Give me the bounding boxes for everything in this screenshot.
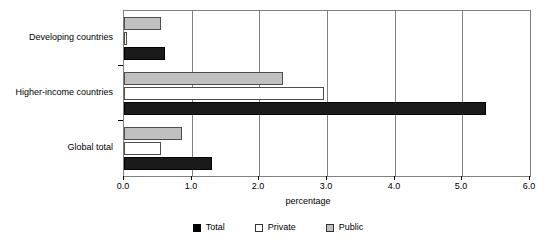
chart-legend: Total Private Public	[0, 222, 556, 233]
legend-label-private: Private	[268, 222, 296, 233]
legend-item-private: Private	[255, 222, 296, 233]
bar-total-1	[124, 102, 486, 115]
x-axis-tick-label: 1.0	[171, 181, 211, 192]
gridline	[395, 11, 396, 176]
category-axis-labels: Developing countries Higher-income count…	[0, 10, 118, 175]
gridline	[462, 11, 463, 176]
x-axis-tick-label: 2.0	[238, 181, 278, 192]
bar-public-0	[124, 17, 161, 30]
bar-private-2	[124, 142, 161, 155]
x-axis-tick	[326, 176, 327, 180]
legend-item-public: Public	[326, 222, 364, 233]
gridline	[327, 11, 328, 176]
x-axis-tick	[258, 176, 259, 180]
x-axis-title-text: percentage	[285, 196, 330, 206]
x-axis-tick-label: 5.0	[441, 181, 481, 192]
category-label-developing-countries: Developing countries	[0, 32, 113, 43]
plot-area	[123, 10, 531, 177]
x-axis-tick	[529, 176, 530, 180]
x-axis-tick	[191, 176, 192, 180]
x-axis-tick	[123, 176, 124, 180]
x-axis-tick-label: 0.0	[103, 181, 143, 192]
category-label-global-total: Global total	[0, 142, 113, 153]
bar-private-1	[124, 87, 324, 100]
category-label-higher-income-countries: Higher-income countries	[0, 87, 113, 98]
black-square-icon	[193, 224, 201, 232]
y-axis-tick	[118, 120, 123, 121]
x-axis-tick-label: 4.0	[374, 181, 414, 192]
legend-label-public: Public	[339, 222, 364, 233]
bar-public-2	[124, 127, 182, 140]
white-square-icon	[255, 224, 263, 232]
bar-chart: Developing countries Higher-income count…	[0, 0, 556, 249]
x-axis-tick	[394, 176, 395, 180]
x-axis-title: percentage	[0, 196, 556, 207]
bar-total-2	[124, 157, 212, 170]
legend-label-total: Total	[206, 222, 225, 233]
x-axis-tick-label: 3.0	[306, 181, 346, 192]
legend-item-total: Total	[193, 222, 225, 233]
gray-square-icon	[326, 224, 334, 232]
bar-public-1	[124, 72, 283, 85]
x-axis-tick	[461, 176, 462, 180]
bar-total-0	[124, 47, 165, 60]
y-axis-tick	[118, 65, 123, 66]
x-axis-tick-label: 6.0	[509, 181, 549, 192]
bar-private-0	[124, 32, 127, 45]
